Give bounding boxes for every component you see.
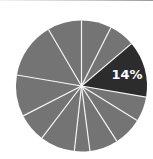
pie-chart: 14% xyxy=(0,0,153,159)
highlight-slice-label: 14% xyxy=(111,67,142,82)
